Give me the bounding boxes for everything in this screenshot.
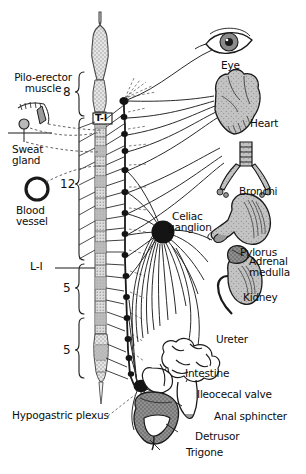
label-anal-sphincter: Anal sphincter bbox=[214, 411, 287, 422]
label-bronchi: Bronchi bbox=[239, 186, 277, 197]
segment-count-lumbar: 5 bbox=[63, 281, 71, 295]
label-l1-marker: L-I bbox=[30, 261, 43, 272]
label-ileocecal-valve: Ileocecal valve bbox=[197, 389, 272, 400]
label-trigone: Trigone bbox=[186, 447, 223, 458]
label-detrusor: Detrusor bbox=[195, 431, 239, 442]
label-t1-marker: T-I bbox=[95, 113, 107, 123]
segment-count-sacral: 5 bbox=[63, 343, 71, 357]
label-ureter: Ureter bbox=[216, 334, 248, 345]
label-eye: Eye bbox=[221, 60, 240, 71]
label-hypogastric-plexus: Hypogastric plexus bbox=[12, 410, 109, 421]
cervical-cord bbox=[93, 80, 107, 112]
label-kidney: Kidney bbox=[243, 292, 278, 303]
label-intestine: Intestine bbox=[185, 368, 229, 379]
label-sweat-gland-line2: gland bbox=[12, 155, 40, 166]
label-heart: Heart bbox=[250, 118, 278, 129]
label-blood-vessel-line2: vessel bbox=[16, 216, 48, 227]
label-celiac-ganglion-line2: ganglion bbox=[168, 222, 212, 233]
sweat-gland-shape bbox=[19, 119, 29, 129]
segment-count-thoracic: 12 bbox=[60, 177, 75, 191]
label-adrenal-medulla-line2: medulla bbox=[249, 267, 290, 278]
segment-count-cervical: 8 bbox=[63, 85, 71, 99]
